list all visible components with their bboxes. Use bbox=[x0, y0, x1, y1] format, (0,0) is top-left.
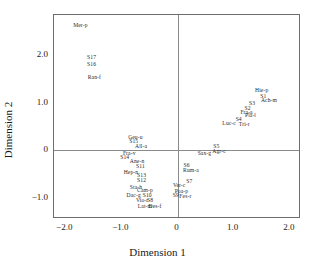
x-tick-label: 0 bbox=[174, 222, 179, 232]
point-label: S7 bbox=[186, 179, 192, 185]
chart-page: Mer-pS17S16Ran-fHie-pS1Ach-mS3S2Fra-aPla… bbox=[0, 0, 315, 260]
point-label: Pla-l bbox=[245, 113, 256, 119]
point-label: Mer-p bbox=[73, 23, 87, 29]
point-label: Des-f bbox=[149, 204, 162, 210]
point-label: S14 bbox=[120, 155, 129, 161]
horizontal-zero-axis bbox=[54, 150, 299, 151]
point-label: Rum-a bbox=[183, 168, 199, 174]
x-tick-label: −2.0 bbox=[56, 222, 72, 232]
point-label: Fes-r bbox=[179, 194, 191, 200]
y-tick-label: 1.0 bbox=[26, 97, 48, 107]
point-label: S17 bbox=[87, 55, 96, 61]
x-tick-label: −1.0 bbox=[112, 222, 128, 232]
point-label: Ran-f bbox=[88, 75, 101, 81]
point-label: S16 bbox=[87, 62, 96, 68]
x-tick-label: 1.0 bbox=[227, 222, 238, 232]
plot-area: Mer-pS17S16Ran-fHie-pS1Ach-mS3S2Fra-aPla… bbox=[53, 14, 300, 218]
point-label: All-a bbox=[135, 145, 147, 151]
point-label: Ach-m bbox=[261, 99, 277, 105]
point-label: Tri-r bbox=[239, 122, 250, 128]
point-label: Luc-c bbox=[222, 121, 236, 127]
y-axis-title: Dimension 2 bbox=[2, 70, 14, 190]
y-tick-label: 0 bbox=[26, 144, 48, 154]
point-label: S12 bbox=[137, 178, 146, 184]
y-tick-label: −1.0 bbox=[26, 192, 48, 202]
x-tick-label: 2.0 bbox=[283, 222, 294, 232]
point-label: S9 bbox=[173, 193, 179, 199]
point-label: Sax-g bbox=[198, 152, 212, 158]
point-label: Agr-c bbox=[212, 149, 225, 155]
y-tick-label: 2.0 bbox=[26, 49, 48, 59]
x-axis-title: Dimension 1 bbox=[0, 246, 315, 258]
point-label: Hep-n bbox=[124, 170, 138, 176]
